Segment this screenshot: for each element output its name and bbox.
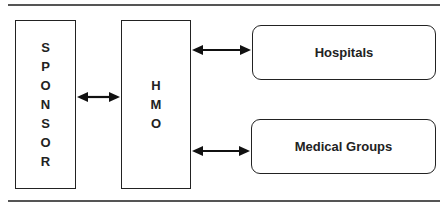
hmo-medical-groups-arrow-icon bbox=[192, 146, 250, 156]
hmo-hospitals-arrow-icon bbox=[192, 45, 251, 55]
sponsor-hmo-arrow-icon bbox=[77, 92, 120, 102]
diagram-canvas: S P O N S O R H M O Hospitals Medical Gr… bbox=[0, 0, 448, 207]
connector-arrows bbox=[0, 0, 448, 207]
